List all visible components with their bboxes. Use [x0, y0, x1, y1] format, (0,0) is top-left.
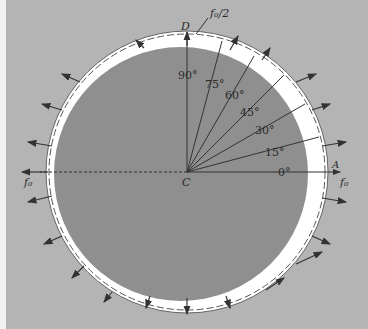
label-top-point: D — [180, 20, 190, 33]
angle-label-15: 15° — [265, 146, 285, 159]
inner-disk — [54, 47, 308, 301]
label-right-point: A — [331, 159, 339, 170]
label-right-force: f₀ — [339, 176, 349, 189]
angle-label-75: 75° — [205, 78, 225, 91]
angle-label-30: 30° — [255, 124, 275, 137]
label-left-force: f₀ — [23, 176, 33, 189]
label-top-force: f₀/2 — [209, 7, 229, 20]
label-center: C — [182, 176, 191, 189]
angle-label-60: 60° — [225, 89, 245, 102]
ring-stress-diagram: D f₀/2 C A f₀ f₀ 90° 75° 60° 45° 30° 15°… — [0, 0, 368, 329]
angle-label-0: 0° — [278, 166, 291, 179]
diagram-canvas: D f₀/2 C A f₀ f₀ 90° 75° 60° 45° 30° 15°… — [0, 0, 368, 329]
angle-label-90: 90° — [178, 69, 198, 82]
angle-label-45: 45° — [240, 106, 260, 119]
